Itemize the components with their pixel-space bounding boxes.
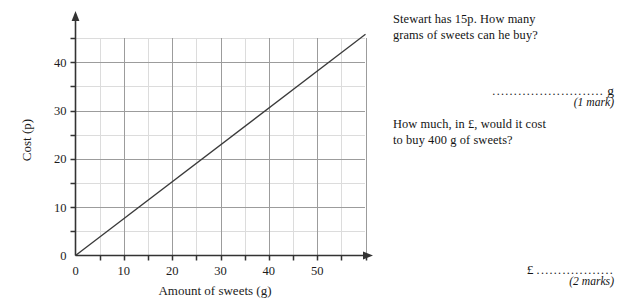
y-tick-label: 40 — [54, 56, 67, 70]
x-tick-label: 10 — [118, 264, 131, 278]
x-tick-label: 20 — [166, 264, 179, 278]
plot-line-cost-of-sweets — [76, 34, 366, 255]
y-tick-label: 30 — [54, 104, 67, 118]
y-axis-title: Cost (p) — [19, 119, 34, 161]
tick-marks-group — [71, 39, 367, 261]
x-axis-arrow-icon — [363, 252, 373, 260]
cost-vs-amount-line-graph: 01020304050010203040 Amount of sweets (g… — [0, 0, 390, 305]
x-tick-label: 40 — [263, 264, 276, 278]
x-tick-label: 30 — [214, 264, 227, 278]
y-tick-label: 10 — [54, 201, 67, 215]
y-tick-label: 20 — [54, 152, 67, 166]
question-one-prompt: Stewart has 15p. How many grams of sweet… — [393, 12, 618, 43]
tick-labels-group: 01020304050010203040 — [54, 56, 323, 278]
question-panel: Stewart has 15p. How many grams of sweet… — [388, 0, 625, 305]
x-tick-label: 0 — [72, 264, 78, 278]
plot-series-group — [76, 34, 366, 255]
y-axis-arrow-icon — [72, 11, 80, 21]
x-tick-label: 50 — [311, 264, 324, 278]
graph-figure: 01020304050010203040 Amount of sweets (g… — [0, 0, 390, 305]
question-two-marks: (2 marks) — [414, 275, 614, 288]
x-axis-title: Amount of sweets (g) — [158, 283, 271, 298]
question-one-marks: (1 mark) — [414, 96, 614, 109]
y-tick-label: 0 — [60, 249, 66, 263]
question-two-prompt: How much, in £, would it cost to buy 400… — [393, 117, 618, 148]
